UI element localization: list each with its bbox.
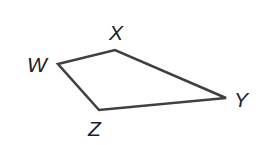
quadrilateral-wxyz bbox=[58, 50, 226, 110]
vertex-label-x: X bbox=[108, 21, 124, 44]
vertex-label-w: W bbox=[27, 53, 49, 76]
vertex-label-z: Z bbox=[87, 117, 102, 140]
quadrilateral-diagram: X W Y Z bbox=[0, 0, 256, 145]
vertex-label-y: Y bbox=[234, 88, 250, 111]
